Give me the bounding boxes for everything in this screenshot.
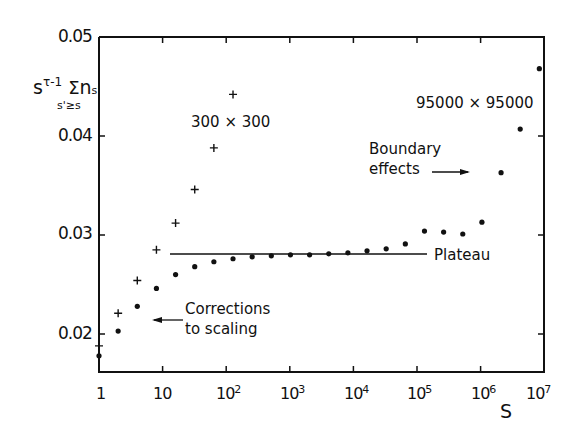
plus-marker [133,277,141,285]
y-label-n-subscript: s' [92,84,101,97]
dot-marker [307,252,312,257]
dot-marker [403,241,408,246]
x-axis-label: S [500,402,512,421]
y-axis-label: sτ-1 Σns' [33,78,100,97]
x-tick-label-1e3: 103 [280,386,304,402]
dot-marker [135,304,140,309]
y-label-sum-subscript: s'≥s [57,100,81,111]
dot-marker [441,229,446,234]
dot-marker [96,353,101,358]
x-tick-label-1e4: 104 [344,386,368,402]
plus-marker [114,309,122,317]
x-tick-label-1e5: 105 [407,386,431,402]
dot-marker [345,250,350,255]
dot-marker [326,251,331,256]
boundary-arrow [432,169,470,175]
dot-marker [192,264,197,269]
y-tick-label-0.05: 0.05 [58,28,92,45]
axis-ticks [99,37,544,372]
dot-marker [518,126,523,131]
dot-marker [173,272,178,277]
dot-marker [460,231,465,236]
dot-marker [211,259,216,264]
dot-marker [230,256,235,261]
y-label-exponent: τ-1 [43,75,62,89]
dot-marker [116,328,121,333]
x-tick-label-1: 1 [96,386,105,402]
dot-marker [288,252,293,257]
plus-marker [172,219,180,227]
dot-marker [422,228,427,233]
dot-marker [479,220,484,225]
dot-marker [384,246,389,251]
dot-marker [269,253,274,258]
plus-marker [152,246,160,254]
x-tick-label-10: 10 [153,386,171,402]
plateau-label: Plateau [434,248,490,263]
corrections-arrow [152,317,183,323]
boundary-effects-label-line1: Boundary [369,142,441,157]
dot-marker [537,66,542,71]
x-tick-label-1e7: 107 [526,386,550,402]
y-label-base: s [33,76,43,98]
dot-marker [154,286,159,291]
y-tick-label-0.03: 0.03 [58,225,92,242]
y-tick-label-0.04: 0.04 [58,127,92,144]
plus-marker [229,90,237,98]
corrections-label-line2: to scaling [185,322,257,337]
sigma-symbol: Σ [68,77,79,98]
series-300x300-label: 300 × 300 [191,115,270,130]
corrections-label-line1: Corrections [185,302,270,317]
plus-marker [95,342,103,350]
x-tick-label-1e2: 102 [216,386,240,402]
x-tick-label-1e6: 106 [471,386,495,402]
dot-marker [364,248,369,253]
y-tick-label-0.02: 0.02 [58,325,92,342]
plus-marker [191,185,199,193]
chart-canvas [0,0,583,437]
dot-marker [250,254,255,259]
plot-frame [98,37,545,373]
boundary-effects-label-line2: effects [369,162,420,177]
y-label-n: n [80,76,92,98]
dot-marker [498,170,503,175]
series-95000x95000-label: 95000 × 95000 [416,96,534,111]
plus-marker [210,144,218,152]
